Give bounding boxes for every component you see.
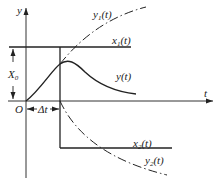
y1-label: y1(t) (92, 8, 112, 22)
diagram-canvas: y t O Δt X0 y1(t) x1(t) y(t) x2(t) y2(t) (0, 0, 215, 186)
origin-label: O (15, 103, 23, 115)
delta-t-label: Δt (37, 103, 48, 115)
x2-label: x2(t) (132, 137, 152, 151)
y2-label: y2(t) (144, 154, 164, 168)
t-axis-label: t (204, 87, 208, 99)
x0-label: X0 (7, 68, 19, 82)
y-axis-label: y (16, 4, 22, 16)
x1-label: x1(t) (111, 34, 131, 48)
y-label: y(t) (115, 70, 132, 83)
